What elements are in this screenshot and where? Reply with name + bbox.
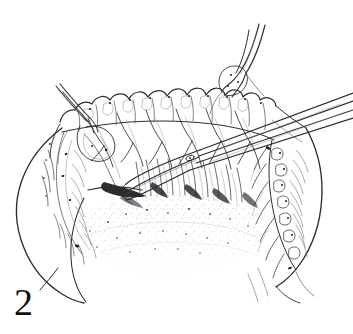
illustration-canvas [0,0,353,334]
figure-number-label: 2 [14,283,33,321]
figure-container: 2 [0,0,353,334]
